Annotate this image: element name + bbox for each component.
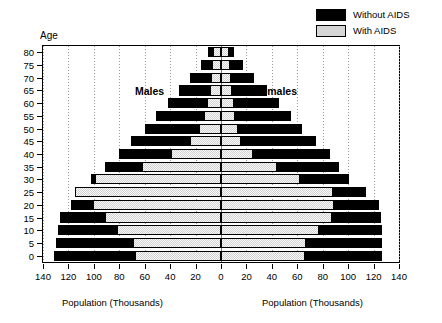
bar-male-with-aids (190, 136, 221, 146)
y-tick-label-5: 5 (29, 237, 34, 248)
y-axis-title: Age (40, 30, 58, 41)
bar-female-with-aids (221, 162, 277, 172)
x-tick-mark (246, 264, 247, 269)
x-tick-label-l40: 40 (165, 271, 176, 282)
bar-female-with-aids (221, 85, 232, 95)
x-tick-mark (399, 264, 400, 269)
y-tick-label-65: 65 (23, 85, 34, 96)
x-tick-mark (145, 264, 146, 269)
x-tick-label-l120: 120 (60, 271, 76, 282)
y-tick-label-30: 30 (23, 174, 34, 185)
x-tick-mark (94, 264, 95, 269)
bar-male-with-aids (199, 124, 221, 134)
bar-female-with-aids (221, 111, 235, 121)
y-tick-label-40: 40 (23, 149, 34, 160)
bar-male-with-aids (207, 98, 221, 108)
x-tick-label-r40: 40 (267, 271, 278, 282)
y-tick-label-35: 35 (23, 161, 34, 172)
bars-layer (43, 46, 399, 262)
bar-female-with-aids (221, 187, 333, 197)
gridline (399, 46, 400, 262)
pyramid-row-age-70 (43, 73, 399, 83)
bar-female-with-aids (221, 225, 319, 235)
legend-label-without-aids: Without AIDS (353, 9, 410, 21)
bar-female-with-aids (221, 212, 332, 222)
bar-male-with-aids (95, 174, 221, 184)
y-tick-label-55: 55 (23, 110, 34, 121)
x-tick-mark (170, 264, 171, 269)
x-tick-label-r120: 120 (366, 271, 382, 282)
bar-male-with-aids (212, 60, 221, 70)
x-tick-mark (297, 264, 298, 269)
bar-male-with-aids (211, 73, 221, 83)
pyramid-row-age-45 (43, 136, 399, 146)
pyramid-row-age-55 (43, 111, 399, 121)
x-tick-mark (272, 264, 273, 269)
x-tick-label-r100: 100 (340, 271, 356, 282)
pyramid-row-age-80 (43, 47, 399, 57)
bar-male-with-aids (210, 85, 221, 95)
y-tick-label-50: 50 (23, 123, 34, 134)
caption-females: Females (255, 85, 297, 97)
pyramid-row-age-5 (43, 238, 399, 248)
gray-swatch-icon (316, 25, 346, 37)
bar-male-with-aids (171, 149, 221, 159)
pyramid-row-age-60 (43, 98, 399, 108)
bar-male-with-aids (142, 162, 221, 172)
x-tick-mark (196, 264, 197, 269)
pyramid-row-age-35 (43, 162, 399, 172)
y-tick-label-80: 80 (23, 47, 34, 58)
bar-male-with-aids (204, 111, 221, 121)
bar-male-with-aids (117, 225, 221, 235)
plot-area: Males Females (42, 45, 400, 263)
x-axis-tick-labels: 14012010080604020020406080100120140 (42, 264, 400, 284)
x-tick-mark (348, 264, 349, 269)
x-tick-label-l100: 100 (86, 271, 102, 282)
pyramid-row-age-40 (43, 149, 399, 159)
pyramid-row-age-75 (43, 60, 399, 70)
x-tick-mark (221, 264, 222, 269)
bar-female-with-aids (221, 251, 305, 261)
y-tick-label-75: 75 (23, 60, 34, 71)
legend-item-without-aids: Without AIDS (316, 8, 438, 21)
y-tick-label-70: 70 (23, 72, 34, 83)
pyramid-row-age-20 (43, 200, 399, 210)
pyramid-row-age-15 (43, 212, 399, 222)
pyramid-row-age-30 (43, 174, 399, 184)
x-tick-label-l140: 140 (35, 271, 51, 282)
bar-female-with-aids (221, 136, 241, 146)
bar-female-with-aids (221, 174, 300, 184)
population-pyramid-figure: Without AIDS With AIDS Age 0510152025303… (0, 0, 442, 323)
x-axis-title-right: Population (Thousands) (262, 297, 363, 308)
black-swatch-icon (316, 9, 346, 21)
x-tick-label-l60: 60 (139, 271, 150, 282)
y-tick-label-0: 0 (29, 250, 34, 261)
x-tick-mark (43, 264, 44, 269)
pyramid-row-age-25 (43, 187, 399, 197)
bar-male-with-aids (135, 251, 221, 261)
y-tick-label-10: 10 (23, 225, 34, 236)
bar-female-with-aids (221, 47, 229, 57)
x-tick-label-r140: 140 (391, 271, 407, 282)
x-axis-title-left: Population (Thousands) (62, 297, 163, 308)
pyramid-row-age-10 (43, 225, 399, 235)
pyramid-row-age-50 (43, 124, 399, 134)
pyramid-row-age-65 (43, 85, 399, 95)
y-tick-label-45: 45 (23, 136, 34, 147)
x-tick-label-l80: 80 (114, 271, 125, 282)
pyramid-row-age-0 (43, 251, 399, 261)
bar-male-with-aids (213, 47, 221, 57)
x-tick-mark (323, 264, 324, 269)
x-tick-label-l20: 20 (190, 271, 201, 282)
x-tick-mark (374, 264, 375, 269)
legend-item-with-aids: With AIDS (316, 24, 438, 37)
x-tick-label-r80: 80 (317, 271, 328, 282)
y-tick-label-60: 60 (23, 98, 34, 109)
caption-males: Males (135, 85, 164, 97)
bar-male-with-aids (133, 238, 221, 248)
bar-female-with-aids (221, 60, 230, 70)
bar-female-with-aids (221, 200, 334, 210)
x-tick-mark (68, 264, 69, 269)
x-tick-label-r0: 0 (218, 271, 223, 282)
x-tick-mark (119, 264, 120, 269)
